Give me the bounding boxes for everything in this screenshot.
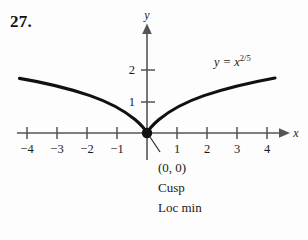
equation-label: y = x2/5 xyxy=(212,53,251,69)
y-tick-marks xyxy=(141,70,155,102)
x-tick-label-1: 1 xyxy=(174,142,180,156)
y-axis-arrowhead xyxy=(142,24,152,35)
graph-plot: −4 −3 −2 −1 1 2 3 4 1 2 x y y = x2/5 (0,… xyxy=(0,0,308,240)
equation-base: y = x xyxy=(212,55,240,69)
equation-exponent: 2/5 xyxy=(240,53,251,63)
x-tick-label-4: 4 xyxy=(264,142,271,156)
x-tick-label--3: −3 xyxy=(50,142,63,156)
y-axis-label: y xyxy=(143,8,150,22)
x-tick-label-2: 2 xyxy=(204,142,210,156)
y-tick-label-1: 1 xyxy=(129,95,135,109)
figure-container: 27. −4 −3 −2 −1 1 2 xyxy=(0,0,308,240)
annotation-leader-line xyxy=(150,137,160,152)
annotation-cusp-label: Cusp xyxy=(158,180,185,195)
x-tick-label-3: 3 xyxy=(234,142,240,156)
cusp-point-marker xyxy=(142,128,152,138)
y-tick-label-2: 2 xyxy=(129,63,135,77)
annotation-locmin-label: Loc min xyxy=(158,200,202,215)
curve-right-branch xyxy=(147,78,275,133)
x-axis-label: x xyxy=(292,126,299,140)
x-axis-arrowhead xyxy=(279,128,290,138)
x-tick-label--2: −2 xyxy=(80,142,93,156)
x-tick-label--4: −4 xyxy=(20,142,34,156)
x-tick-label--1: −1 xyxy=(110,142,123,156)
annotation-point-label: (0, 0) xyxy=(158,160,186,175)
